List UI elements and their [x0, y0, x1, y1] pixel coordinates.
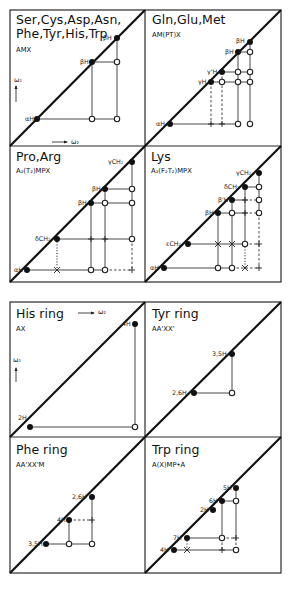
panel-title-line2: Phe,Tyr,His,Trp	[16, 26, 108, 41]
spin-system: AMX	[16, 46, 32, 54]
omega1-label: ω₁	[14, 76, 22, 84]
peak-label: βH	[225, 48, 234, 56]
spin-system: AX	[16, 325, 26, 333]
diag-peak-beta2	[114, 35, 120, 41]
panel-title: His ring	[16, 306, 64, 321]
omega2-label: ω₂	[71, 138, 79, 146]
spin-system: AA'XX'M	[16, 461, 45, 469]
omega2-arrow-icon	[52, 141, 68, 144]
panel-title: Pro,Arg	[16, 149, 61, 164]
peak-label: 4H	[57, 516, 66, 523]
peak-label: δCH₂	[224, 183, 240, 190]
peak-label: αH	[150, 264, 159, 271]
peak-label: β'H	[218, 196, 229, 204]
peak-label: γ'H	[207, 68, 217, 76]
diag-peak-alpha	[34, 116, 40, 122]
omega1-label: ω₁	[13, 356, 21, 364]
spin-system: A(X)MP•A	[152, 461, 186, 469]
spin-system: A₂(T₂)MPX	[16, 167, 51, 175]
peak-label: βH	[78, 199, 87, 207]
peak-label: δCH₂	[35, 235, 51, 242]
panel-pro-arg: Pro,Arg A₂(T₂)MPX αH δCH₂ βH βH γCH₂	[10, 146, 145, 282]
peak-label: βH	[80, 58, 89, 66]
peak-label: αH	[25, 115, 34, 122]
panel-title: Trp ring	[151, 442, 199, 457]
omega1-arrow-icon	[15, 367, 18, 382]
peak-label: 3,5H	[28, 540, 43, 547]
diag-peak-beta1	[89, 59, 95, 65]
panel-phe-ring: Phe ring AA'XX'M 3,5H 4H 2,6H	[10, 437, 145, 573]
omega2-label: ω₂	[98, 308, 106, 316]
spin-system: A₂(F₂T₂)MPX	[151, 167, 192, 175]
peak-label: αH	[14, 266, 23, 273]
peak-label: βH	[236, 37, 245, 45]
peak-label: γH	[198, 78, 207, 86]
peak-label: 2H	[200, 506, 209, 513]
spin-system: AM(PT)X	[152, 31, 181, 39]
peak-label: εCH₂	[166, 240, 182, 247]
peak-label: 4H	[122, 320, 131, 327]
panel-title: Gln,Glu,Met	[152, 12, 226, 27]
peak-label: γCH₂	[108, 158, 124, 166]
peak-label: αH	[156, 120, 165, 127]
peak-label: 5H	[223, 484, 232, 491]
cosy-pattern-figure: Ser,Cys,Asp,Asn, Phe,Tyr,His,Trp AMX ω₁ …	[0, 0, 290, 594]
panel-tyr-ring: Tyr ring AA'XX' 2,6H 3,5H	[145, 302, 281, 437]
panel-lys: Lys A₂(F₂T₂)MPX αH εCH₂ βH	[145, 146, 281, 282]
peak-label: βH	[205, 209, 214, 217]
peak-label: 2,6H	[72, 493, 87, 500]
panel-title: Lys	[151, 149, 171, 164]
peak-label: 2,6H	[172, 389, 187, 396]
peak-label: 4H	[160, 546, 169, 553]
peak-label: 6H	[209, 497, 218, 504]
peak-label: 2H	[18, 414, 27, 421]
omega2-arrow-icon	[78, 312, 95, 315]
panel-title: Tyr ring	[151, 306, 199, 321]
peak-label: βH	[103, 34, 112, 42]
peak-label: 7H	[173, 534, 182, 541]
panel-trp-ring: Trp ring A(X)MP•A 4H 7H 2H 6H 5H	[145, 437, 281, 573]
panel-title-line1: Ser,Cys,Asp,Asn,	[16, 12, 121, 27]
peak-label: 3,5H	[212, 350, 227, 357]
panel-his-ring: His ring AX ω₂ ω₁ 2H 4H	[10, 302, 145, 437]
omega1-arrow-icon	[15, 85, 18, 102]
spin-system: AA'XX'	[152, 325, 175, 333]
peak-label: βH	[92, 185, 101, 193]
peak-label: γCH₂	[236, 169, 252, 177]
panel-ser-cys-asp: Ser,Cys,Asp,Asn, Phe,Tyr,His,Trp AMX ω₁ …	[10, 10, 145, 146]
panel-title: Phe ring	[16, 442, 68, 457]
panel-gln-glu-met: Gln,Glu,Met AM(PT)X αH γH γ'H βH βH	[145, 10, 281, 146]
